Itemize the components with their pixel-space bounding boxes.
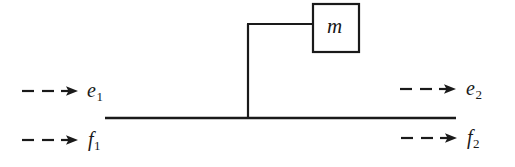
port-label-e2-subscript: 2	[475, 87, 482, 102]
port-label-f1-subscript: 1	[94, 138, 101, 153]
port-label-e2-symbol: e	[466, 77, 475, 99]
arrow-f2	[401, 133, 457, 143]
arrow-f1	[22, 135, 78, 145]
port-label-e1-symbol: e	[87, 79, 96, 101]
arrow-e2	[400, 84, 456, 94]
port-label-f2-symbol: f	[467, 126, 473, 148]
port-label-f2: f2	[467, 127, 479, 147]
port-label-e1-subscript: 1	[96, 89, 103, 104]
figure-canvas: m e1 f1 e2 f2	[0, 0, 515, 167]
port-label-e2: e2	[466, 78, 481, 98]
diagram-vector-layer	[0, 0, 515, 167]
arrow-e1	[22, 86, 78, 96]
mass-block-label: m	[327, 16, 342, 37]
port-label-f1: f1	[88, 129, 100, 149]
port-label-f1-symbol: f	[88, 128, 94, 150]
port-label-f2-subscript: 2	[473, 136, 480, 151]
port-label-e1: e1	[87, 80, 102, 100]
